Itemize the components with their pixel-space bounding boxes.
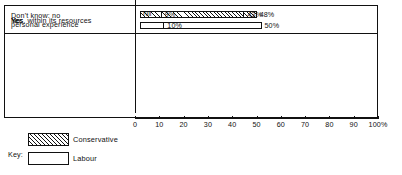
key-label-labour: Labour	[73, 154, 97, 163]
x-axis-tick-label: 100%	[369, 121, 388, 129]
chart-frame: Yes 48% 28% Yes, within its resources 43…	[4, 5, 378, 118]
chart-row: Don't know: no personal experience Nil 1…	[5, 6, 377, 34]
plot-area-row-3: Nil 10%	[140, 6, 377, 34]
x-axis-tick-label: 80	[325, 121, 333, 129]
x-axis-tick-label: 20	[179, 121, 187, 129]
key-swatch-conservative	[28, 133, 69, 146]
x-axis-tick-label: 40	[228, 121, 236, 129]
x-axis-tick	[354, 116, 355, 119]
x-axis-tick	[305, 116, 306, 119]
x-axis-tick-label: 30	[204, 121, 212, 129]
x-axis-tick-label: 90	[350, 121, 358, 129]
x-axis-tick	[232, 116, 233, 119]
x-axis-tick	[378, 116, 379, 119]
x-axis-tick-label: 60	[277, 121, 285, 129]
bar-labour-row-3	[140, 22, 164, 29]
x-axis-tick	[281, 116, 282, 119]
key-swatch-labour	[28, 152, 69, 165]
key-label-conservative: Conservative	[73, 135, 118, 144]
axis-baseline	[135, 0, 136, 113]
x-axis-tick	[208, 116, 209, 119]
x-axis-tick	[159, 116, 160, 119]
chart-key: Key: Conservative Labour	[4, 133, 184, 173]
key-title: Key:	[8, 150, 23, 159]
bar-value-labour-row-3: 10%	[167, 22, 182, 29]
x-axis-tick-label: 50	[252, 121, 260, 129]
x-axis-tick	[329, 116, 330, 119]
x-axis-tick	[257, 116, 258, 119]
x-axis-tick-label: 70	[301, 121, 309, 129]
x-axis: 0102030405060708090100%	[135, 118, 378, 134]
bar-value-conservative-row-3: Nil	[143, 10, 151, 18]
row-label-dont-know: Don't know: no personal experience	[11, 11, 79, 29]
x-axis-tick-label: 10	[155, 121, 163, 129]
x-axis-tick	[135, 116, 136, 119]
x-axis-tick-label: 0	[133, 121, 137, 129]
x-axis-tick	[184, 116, 185, 119]
